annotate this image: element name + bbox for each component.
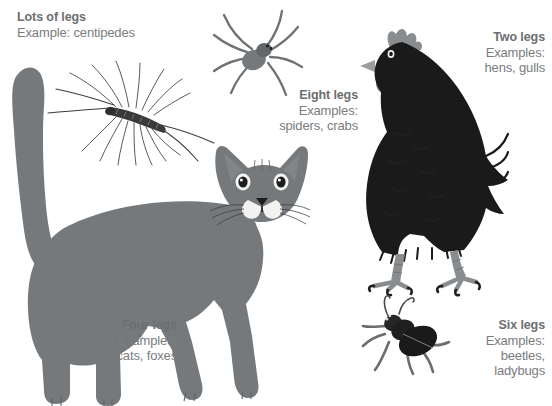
label-six-heading: Six legs — [486, 318, 545, 333]
label-eight-line1: Examples: — [279, 103, 358, 118]
label-eight-heading: Eight legs — [279, 88, 358, 103]
label-six-line1: Examples: — [486, 333, 545, 348]
label-lots-of-legs: Lots of legs Example: centipedes — [17, 10, 135, 40]
label-two-line1: Examples: — [485, 45, 546, 60]
label-eight-line2: spiders, crabs — [279, 118, 358, 133]
leg-count-infographic: Lots of legs Example: centipedes Eight l… — [0, 0, 552, 406]
label-four-line1: Examples: — [117, 333, 178, 348]
label-six-legs: Six legs Examples: beetles, ladybugs — [486, 318, 545, 378]
label-six-line2: beetles, — [486, 348, 545, 363]
label-four-legs: Four legs Examples: cats, foxes — [117, 318, 178, 363]
centipede-illustration — [30, 55, 220, 180]
beetle-illustration — [355, 292, 455, 382]
label-two-heading: Two legs — [485, 30, 546, 45]
spider-illustration — [210, 5, 305, 100]
label-six-line3: ladybugs — [486, 363, 545, 378]
label-two-line2: hens, gulls — [485, 60, 546, 75]
label-four-line2: cats, foxes — [117, 348, 178, 363]
label-lots-heading: Lots of legs — [17, 10, 135, 25]
label-eight-legs: Eight legs Examples: spiders, crabs — [279, 88, 358, 133]
label-four-heading: Four legs — [117, 318, 178, 333]
label-two-legs: Two legs Examples: hens, gulls — [485, 30, 546, 75]
label-lots-line1: Example: centipedes — [17, 25, 135, 40]
